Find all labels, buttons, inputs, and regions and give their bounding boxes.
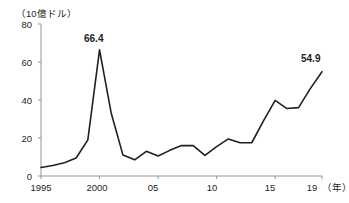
line-chart: （10億ドル） 80 60 40 20 0 1995 2000 05 10 15… (0, 0, 349, 203)
data-series-line (41, 50, 322, 168)
axes (41, 24, 322, 176)
plot-area (0, 0, 349, 203)
